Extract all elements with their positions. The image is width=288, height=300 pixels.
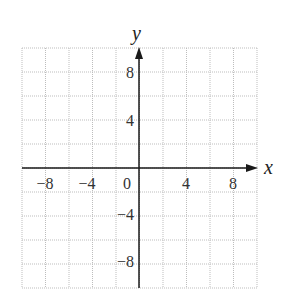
y-tick-label: 4 <box>126 112 134 129</box>
coordinate-plane: x y −8 −4 0 4 8 8 4 −4 −8 <box>0 0 288 300</box>
y-tick-label: −4 <box>117 206 134 223</box>
y-axis-label: y <box>130 22 141 45</box>
y-tick-label: 8 <box>126 64 134 81</box>
x-tick-label: 4 <box>182 175 190 192</box>
x-tick-label: 8 <box>229 175 237 192</box>
x-tick-label: 0 <box>123 175 131 192</box>
y-tick-label: −8 <box>117 253 134 270</box>
x-tick-label: −8 <box>36 175 53 192</box>
x-tick-label: −4 <box>78 175 95 192</box>
y-axis-arrow-icon <box>135 47 143 59</box>
x-axis-label: x <box>263 156 273 178</box>
x-axis-arrow-icon <box>246 164 258 172</box>
